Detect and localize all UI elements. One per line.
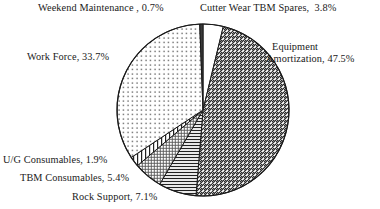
slice-label-tbm-consumables: TBM Consumables, 5.4% (20, 172, 129, 184)
slice-label-equipment-amortization-line1: Equipment (272, 41, 318, 52)
pie-chart-figure: Weekend Maintenance , 0.7% Cutter Wear T… (0, 0, 380, 209)
slice-label-work-force: Work Force, 33.7% (27, 51, 109, 63)
slice-label-weekend-maintenance: Weekend Maintenance , 0.7% (38, 2, 164, 14)
slice-label-rock-support: Rock Support, 7.1% (72, 191, 157, 203)
slice-label-cutter-wear-tbm-spares: Cutter Wear TBM Spares, 3.8% (200, 2, 336, 14)
slice-label-ug-consumables: U/G Consumables, 1.9% (3, 154, 108, 166)
pie-slice-group (117, 24, 289, 196)
slice-label-equipment-amortization-line2: Amortization, 47.5% (266, 53, 355, 65)
slice-label-equipment-amortization: EquipmentAmortization, 47.5% (272, 41, 355, 66)
